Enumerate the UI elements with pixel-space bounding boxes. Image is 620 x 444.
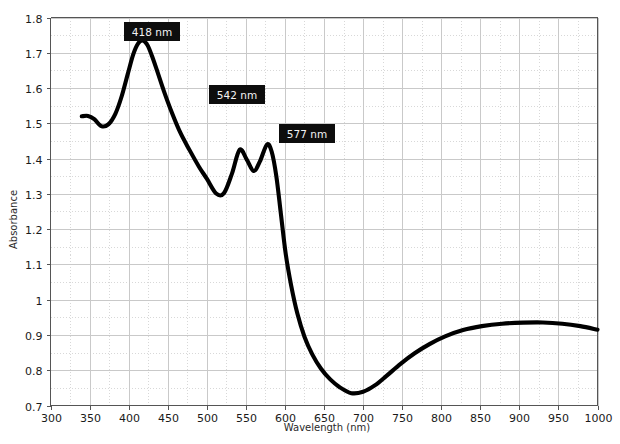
y-tick-label: 0.7 — [25, 401, 43, 414]
y-tick-label: 0.8 — [25, 365, 43, 378]
x-axis-title: Wavelength (nm) — [284, 422, 370, 433]
x-tick-label: 750 — [392, 412, 413, 425]
x-tick-label: 850 — [470, 412, 491, 425]
y-tick-label: 0.9 — [25, 330, 43, 343]
x-tick-label: 1000 — [585, 412, 613, 425]
annotation-label: 577 nm — [287, 128, 327, 140]
x-tick-label: 950 — [548, 412, 569, 425]
x-tick-label: 400 — [119, 412, 140, 425]
peak-annotation: 542 nm — [209, 85, 265, 104]
y-axis-title: Absorbance — [8, 190, 19, 249]
x-tick-label: 450 — [158, 412, 179, 425]
y-tick-label: 1.2 — [25, 224, 43, 237]
x-tick-label: 300 — [41, 412, 62, 425]
y-tick-label: 1.8 — [25, 13, 43, 26]
x-tick-label: 500 — [197, 412, 218, 425]
chart-svg-canvas: 0.70.80.911.11.21.31.41.51.61.71.8 30035… — [0, 0, 620, 444]
x-tick-label: 350 — [80, 412, 101, 425]
peak-annotation: 577 nm — [279, 124, 335, 143]
y-tick-label: 1 — [36, 295, 43, 308]
x-tick-label: 800 — [431, 412, 452, 425]
y-tick-label: 1.4 — [25, 154, 43, 167]
y-tick-label: 1.5 — [25, 118, 43, 131]
annotation-label: 542 nm — [217, 89, 257, 101]
peak-annotation: 418 nm — [124, 22, 180, 41]
x-tick-label: 900 — [509, 412, 530, 425]
y-tick-label: 1.6 — [25, 83, 43, 96]
y-tick-label: 1.3 — [25, 189, 43, 202]
annotation-label: 418 nm — [132, 26, 172, 38]
y-tick-label: 1.7 — [25, 48, 43, 61]
absorbance-spectrum-chart: 0.70.80.911.11.21.31.41.51.61.71.8 30035… — [0, 0, 620, 444]
x-tick-label: 550 — [236, 412, 257, 425]
y-tick-label: 1.1 — [25, 259, 43, 272]
